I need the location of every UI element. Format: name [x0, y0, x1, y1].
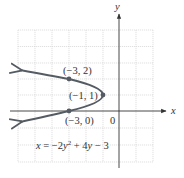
point-neg3-0 [67, 109, 72, 114]
y-axis-label: y [114, 1, 120, 12]
parabola-figure: x y 0 (−3, 2) (−1, 1) (−3, 0) x = −2y2 +… [0, 0, 184, 178]
point-label-neg3-2: (−3, 2) [63, 65, 92, 77]
point-label-neg3-0: (−3, 0) [65, 115, 94, 127]
vertex-point [101, 93, 106, 98]
origin-label: 0 [110, 115, 115, 126]
equation-label: x = −2y2 + 4y − 3 [35, 139, 109, 151]
x-axis-label: x [170, 105, 176, 116]
point-neg3-2 [67, 77, 72, 82]
vertex-label: (−1, 1) [69, 90, 98, 102]
